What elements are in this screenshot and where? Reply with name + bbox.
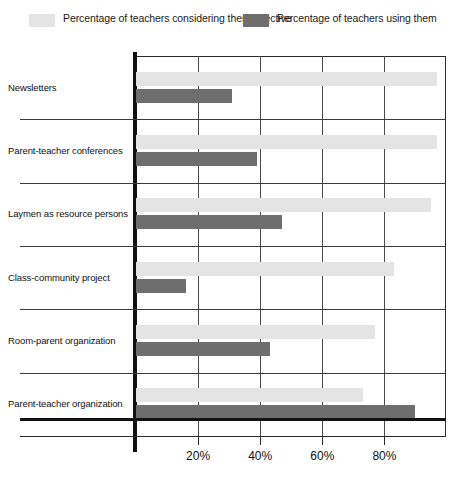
- bar-effective: [136, 262, 394, 276]
- category-separator: [20, 246, 446, 247]
- legend-label-using: Percentage of teachers using them: [277, 12, 437, 24]
- category-label: Room-parent organization: [8, 335, 115, 346]
- bar-using: [136, 342, 270, 356]
- tickmark-40: [260, 436, 261, 445]
- legend-swatch-using: [243, 14, 269, 27]
- chart-legend: Percentage of teachers considering them …: [0, 0, 462, 38]
- category-label: Newsletters: [8, 82, 57, 93]
- category-separator: [20, 183, 446, 184]
- tickmark-60: [322, 436, 323, 445]
- category-label: Parent-teacher organization: [8, 398, 123, 409]
- chart-baseline: [20, 418, 446, 421]
- tickmark-20: [198, 436, 199, 445]
- tickmark-80: [384, 436, 385, 445]
- tick-label-20: 20%: [186, 449, 210, 463]
- tick-label-40: 40%: [248, 449, 272, 463]
- bar-using: [136, 279, 186, 293]
- category-separator: [20, 309, 446, 310]
- bar-chart: 20%40%60%80% NewslettersParent-teacher c…: [0, 38, 462, 482]
- bar-effective: [136, 388, 363, 402]
- bar-using: [136, 89, 232, 103]
- bar-using: [136, 215, 282, 229]
- tick-label-80: 80%: [372, 449, 396, 463]
- category-separator: [20, 373, 446, 374]
- bar-effective: [136, 325, 375, 339]
- bar-effective: [136, 198, 431, 212]
- bar-effective: [136, 135, 437, 149]
- x-axis-line: [20, 436, 446, 437]
- bar-using: [136, 152, 257, 166]
- bar-effective: [136, 72, 437, 86]
- category-label: Parent-teacher conferences: [8, 145, 123, 156]
- category-label: Laymen as resource persons: [8, 208, 128, 219]
- category-separator: [20, 119, 446, 120]
- legend-swatch-effective: [29, 14, 55, 27]
- tick-label-60: 60%: [310, 449, 334, 463]
- category-label: Class-community project: [8, 272, 110, 283]
